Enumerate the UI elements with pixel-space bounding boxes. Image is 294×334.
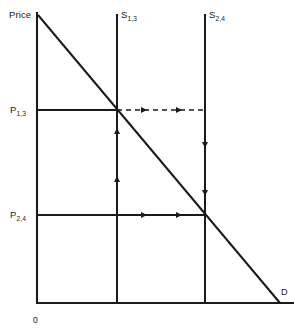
- price-level-1-label: P1,3: [10, 104, 26, 117]
- arrowhead-down-right-b: [202, 190, 208, 196]
- supply-curve-2-label-subscript: 2,4: [215, 15, 225, 22]
- arrowhead-up-left-b: [114, 176, 120, 182]
- supply-curve-1-label: S1,3: [121, 9, 137, 22]
- arrowhead-up-left-a: [114, 128, 120, 134]
- supply-curve-2-label: S2,4: [209, 9, 225, 22]
- price-level-2-label-subscript: 2,4: [16, 215, 26, 222]
- y-axis-label: Price: [9, 9, 31, 20]
- supply-curve-1-label-subscript: 1,3: [127, 15, 137, 22]
- arrowhead-right-top-a: [141, 107, 147, 113]
- arrowhead-right-bottom-a: [141, 212, 147, 218]
- price-level-1-label-subscript: 1,3: [16, 110, 26, 117]
- arrowhead-right-top-b: [176, 107, 182, 113]
- demand-curve: [38, 15, 280, 303]
- arrowhead-right-bottom-b: [176, 212, 182, 218]
- demand-curve-label: D: [281, 287, 288, 297]
- price-level-2-label: P2,4: [10, 209, 26, 222]
- diagram-canvas: Price 0 S1,3 S2,4 P1,3 P2,4 D: [0, 0, 294, 334]
- origin-label: 0: [33, 315, 38, 325]
- arrowhead-down-right-a: [202, 142, 208, 148]
- supply-demand-figure: Price 0 S1,3 S2,4 P1,3 P2,4 D: [0, 0, 294, 334]
